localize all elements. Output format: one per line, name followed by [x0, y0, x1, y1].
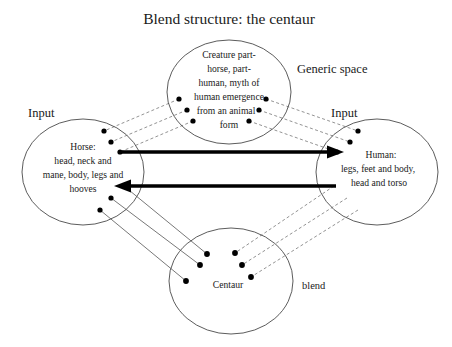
dot	[232, 250, 238, 256]
human-text-line: Human:	[366, 149, 397, 160]
page-title: Blend structure: the centaur	[143, 10, 316, 27]
generic-space-label: Generic space	[297, 62, 368, 76]
dot	[97, 207, 102, 212]
dot	[121, 183, 126, 188]
link-blend-left-1	[124, 186, 207, 254]
arrow-horse-to-human	[122, 146, 344, 159]
input-right-label: Input	[331, 106, 358, 120]
blend-structure-diagram: Blend structure: the centaur Generic spa…	[0, 0, 452, 347]
dot	[239, 262, 245, 268]
input-human-text: Human: legs, feet and body, head and tor…	[341, 149, 415, 188]
dot	[246, 118, 251, 123]
arrow-human-to-horse	[114, 180, 336, 193]
dot	[190, 118, 195, 123]
dot	[101, 128, 106, 133]
dot	[204, 251, 210, 257]
dot	[334, 149, 339, 154]
input-horse-text: Horse: head, neck and mane, body, legs a…	[43, 141, 124, 194]
links-input-left-to-blend	[100, 186, 207, 281]
human-text-line: head and torso	[351, 177, 407, 188]
dot	[117, 149, 122, 154]
links-generic-to-input-left	[104, 99, 193, 152]
dot	[263, 96, 268, 101]
dot	[197, 262, 203, 268]
input-human-dots	[334, 128, 360, 154]
link-generic-left-1	[104, 99, 179, 131]
blend-centaur-text: Centaur	[213, 279, 244, 290]
horse-text-line: mane, body, legs and	[43, 169, 124, 180]
dot	[347, 139, 352, 144]
generic-space-text: Creature part- horse, part- human, myth …	[194, 49, 264, 130]
dot	[108, 195, 113, 200]
generic-text-line: horse, part-	[207, 63, 251, 74]
horse-text-line: head, neck and	[54, 155, 111, 166]
centaur-text-line: Centaur	[213, 279, 244, 290]
generic-text-line: form	[220, 119, 239, 130]
generic-text-line: Creature part-	[202, 49, 256, 60]
link-blend-left-2	[111, 198, 200, 265]
generic-text-line: human emergence	[194, 91, 264, 102]
dot	[248, 274, 254, 280]
blend-label: blend	[302, 280, 326, 291]
generic-text-line: human, myth of	[198, 77, 260, 88]
link-blend-right-3	[251, 210, 358, 277]
dot	[176, 96, 181, 101]
dot	[183, 278, 189, 284]
diagram-canvas: Blend structure: the centaur Generic spa…	[0, 0, 452, 347]
dot	[355, 128, 360, 133]
link-blend-left-3	[100, 210, 186, 281]
horse-text-line: hooves	[69, 183, 96, 194]
dot	[108, 139, 113, 144]
generic-text-line: from an animal	[197, 105, 256, 116]
horse-text-line: Horse:	[70, 141, 96, 152]
link-blend-right-1	[235, 186, 334, 253]
dot	[256, 107, 261, 112]
input-left-label: Input	[28, 106, 55, 120]
human-text-line: legs, feet and body,	[341, 163, 415, 174]
dot	[184, 107, 189, 112]
link-generic-left-2	[111, 110, 187, 142]
link-blend-right-2	[242, 198, 347, 265]
